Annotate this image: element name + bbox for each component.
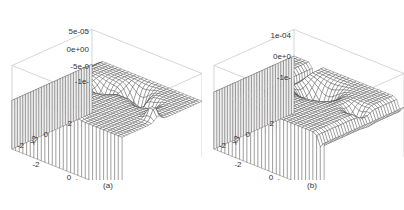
surface-plot-a: 5e-050e+00-5e-0-1e--202x1-202x3 [0,0,202,210]
plot-a-skirt-facet [57,79,60,129]
plot-a-skirt-facet [78,118,82,177]
plot-a-skirt-facet [85,123,89,180]
plot-a-z-tick-label: 0e+00 [67,45,90,54]
plot-b-skirt-facet [233,82,236,140]
plot-a-skirt-facet [84,67,87,117]
plot-b-skirt-facet [265,68,268,126]
plot-a-skirt-facet [93,126,97,180]
plot-a-skirt-facet [20,96,23,146]
plot-b-skirt-facet [227,85,230,143]
plot-b-skirt-facet [214,91,217,149]
plot-b-z-tick-label: 1e-04 [271,31,292,40]
plot-b-skirt-facet [225,86,228,144]
plot-a-z-tick-label: 5e-05 [69,27,90,36]
caption-b: (b) [292,181,332,190]
plot-b-skirt-facet [217,90,220,148]
plot-a-skirt-facet [28,92,31,142]
plot-b-y-tick-label: -2 [219,141,227,150]
plot-a-skirt-facet [81,68,84,118]
plot-a-skirt-facet [17,97,20,147]
plot-a-skirt-facet [65,75,68,125]
plot-b-skirt-facet [291,123,295,180]
plot-b-y-tick-label: 0 [246,130,251,139]
plot-a-skirt-facet [74,115,78,175]
plot-a-x-tick-label: -2 [32,160,40,169]
plot-a-skirt-facet [23,94,26,144]
surface-plot-a-canvas: 5e-050e+00-5e-0-1e--202x1-202x3 [0,0,202,180]
plot-a-skirt-facet [71,73,74,123]
plot-b-skirt-facet [243,78,246,136]
plot-b-skirt-facet [278,62,281,120]
plot-b-skirt-facet [286,59,289,117]
plot-a-skirt-facet [82,121,86,179]
plot-b-z-tick-label: 0e+0 [273,52,292,61]
plot-a-skirt-facet [36,88,39,138]
plot-b-skirt-facet [259,71,262,129]
plot-b-skirt-facet [313,132,317,180]
plot-a-skirt-facet [89,124,93,180]
surface-plot-b: 1e-040e+0-1e--202x1-202x3 [202,0,404,210]
plot-b-skirt-facet [254,73,257,131]
plot-a-z-tick-label: -5e-0 [70,62,89,71]
plot-b-x-axis-label: x1 [272,177,284,180]
plot-a-skirt-facet [118,136,122,180]
plot-b-skirt-facet [241,79,244,137]
plot-a-skirt-facet [12,99,15,149]
plot-b-skirt-facet [257,72,260,130]
plot-a-skirt-facet [115,134,119,180]
plot-b-skirt-facet [249,75,252,133]
plot-b-y-tick-label: 2 [270,119,275,128]
plot-b-skirt-facet [281,61,284,119]
surface-plot-b-canvas: 1e-040e+0-1e--202x1-202x3 [202,0,404,180]
plot-b-skirt-facet [306,129,310,180]
plot-a-skirt-facet [44,85,47,135]
plot-a-y-tick-label: 0 [44,130,49,139]
caption-a: (a) [88,181,128,190]
plot-b-skirt-facet [235,81,238,139]
plot-a-skirt-facet [55,80,58,130]
plot-a-skirt-facet [41,86,44,136]
plot-b-skirt-facet [222,87,225,145]
plot-b-skirt-facet [267,67,270,125]
plot-b-skirt-facet [287,121,291,179]
plot-b-skirt-facet [302,127,306,180]
plot-b-skirt-facet [251,74,254,132]
plot-b-skirt-facet [298,126,302,180]
plot-b-skirt-facet [309,130,313,180]
plot-b-skirt-facet [262,69,265,127]
plot-a-y-tick-label: 2 [68,119,73,128]
plot-a-y-tick-label: -2 [17,141,25,150]
plot-b-skirt-facet [291,56,294,114]
plot-a-skirt-facet [107,131,111,180]
plot-a-z-tick-label: -1e- [75,77,90,86]
plot-a-skirt-facet [39,87,42,137]
plot-a-skirt-facet [63,76,66,126]
plot-b-z-tick-label: -1e- [277,73,292,82]
plot-a-skirt-facet [49,82,52,132]
plot-a-skirt-facet [47,84,50,134]
plot-a-skirt-facet [25,93,28,143]
plot-b-skirt-facet [289,57,292,115]
plot-b-skirt-facet [246,77,249,135]
plot-a-skirt-facet [68,74,71,124]
plot-a-skirt-facet [60,78,63,128]
plot-a-skirt-facet [100,128,104,180]
plot-b-skirt-facet [273,65,276,123]
plot-b-skirt-facet [219,88,222,146]
plot-b-skirt-facet [238,80,241,138]
plot-a-x-axis-label: x1 [70,177,82,180]
plot-a-skirt-facet [96,127,100,180]
plot-a-skirt-facet [87,66,90,116]
plot-a-skirt-facet [89,64,92,114]
plot-a-x-tick-label: 0 [67,173,72,180]
plot-a-skirt-facet [33,90,36,140]
plot-b-skirt-facet [295,124,299,180]
plot-b-skirt-facet [320,143,324,180]
plot-b-skirt-facet [270,66,273,124]
plot-b-x-tick-label: 0 [269,173,274,180]
plot-b-skirt-facet [230,84,233,142]
plot-a-skirt-facet [111,133,115,180]
plot-b-skirt-facet [284,120,288,178]
plot-a-skirt-facet [31,91,34,141]
plot-b-skirt-facet [276,117,280,175]
